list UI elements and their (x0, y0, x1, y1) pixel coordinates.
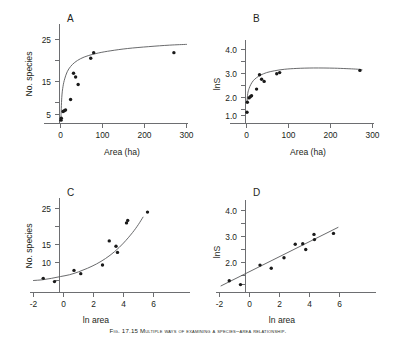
data-point (258, 73, 261, 76)
data-point (69, 98, 72, 101)
data-point (228, 279, 231, 282)
data-point (172, 51, 175, 54)
panel-b-x-ticks: 0 100 200 300 (244, 124, 380, 141)
panel-b-ytick-40: 4.0 (225, 45, 237, 55)
data-point (313, 238, 316, 241)
panel-b-y-axis-title: lnS (212, 78, 222, 91)
panel-a-ytick-15: 15 (42, 77, 52, 87)
panel-d-axes (216, 200, 376, 293)
data-point (312, 233, 315, 236)
panel-c-ytick-10: 10 (42, 258, 52, 268)
panel-b-letter: B (253, 13, 260, 24)
panel-a-ytick-25: 25 (42, 35, 52, 45)
data-point (76, 83, 79, 86)
data-point (239, 283, 242, 286)
panel-d-ytick-40: 4.0 (225, 206, 237, 216)
figure-caption-text: Fig. 17.15 Multiple ways of examining a … (109, 327, 286, 334)
data-point (278, 71, 281, 74)
data-point (358, 69, 361, 72)
panel-c-xtick-6: 6 (151, 299, 156, 309)
panel-d-ytick-20: 2.0 (225, 258, 237, 268)
data-point (262, 80, 265, 83)
panel-c-points (42, 210, 150, 283)
panel-d-points (228, 232, 336, 287)
data-point (294, 243, 297, 246)
panel-b-xtick-200: 200 (324, 130, 338, 140)
panel-d-xtick-4: 4 (307, 299, 312, 309)
panel-c-xtick-neg2: -2 (30, 299, 38, 309)
data-point (42, 277, 45, 280)
panel-a-plot: A 25 15 5 0 100 20 (0, 0, 198, 170)
panel-d-plot: D 4.0 3.0 2.0 (198, 170, 396, 330)
data-point (301, 242, 304, 245)
panel-d-y-ticks: 4.0 3.0 2.0 (225, 206, 245, 285)
panel-c: C 25 15 10 -2 0 (0, 170, 198, 330)
panel-a-x-axis-title: Area (ha) (104, 147, 140, 157)
panel-c-xtick-2: 2 (91, 299, 96, 309)
panel-b-fit-curve (247, 68, 362, 102)
panel-c-ytick-15: 15 (42, 240, 52, 250)
panel-a-letter: A (67, 13, 74, 24)
data-point (275, 72, 278, 75)
data-point (60, 117, 63, 120)
data-point (53, 280, 56, 283)
data-point (101, 263, 104, 266)
data-point (270, 267, 273, 270)
panel-c-x-axis-title: ln area (83, 315, 109, 325)
panel-d-xtick-neg2: -2 (216, 299, 224, 309)
data-point (64, 108, 67, 111)
panel-d-fit-line (221, 227, 338, 286)
data-point (79, 272, 82, 275)
data-point (282, 256, 285, 259)
panel-a: A 25 15 5 0 100 20 (0, 0, 198, 170)
data-point (304, 248, 307, 251)
data-point (92, 51, 95, 54)
panel-c-ytick-25: 25 (42, 204, 52, 214)
panel-a-xtick-300: 300 (180, 130, 194, 140)
panel-b-xtick-100: 100 (282, 130, 296, 140)
data-point (250, 94, 253, 97)
data-point (126, 219, 129, 222)
panel-a-xtick-200: 200 (138, 130, 152, 140)
panel-c-xtick-4: 4 (121, 299, 126, 309)
panel-b-ytick-10: 1.0 (225, 111, 237, 121)
panel-b-plot: B 4.0 3.0 2.0 1.0 (198, 0, 396, 170)
panel-c-axes (30, 198, 190, 293)
data-point (246, 101, 249, 104)
panel-a-ytick-5: 5 (46, 110, 51, 120)
data-point (108, 239, 111, 242)
panel-c-plot: C 25 15 10 -2 0 (0, 170, 198, 330)
panel-c-y-ticks: 25 15 10 (42, 204, 60, 281)
panel-a-xtick-0: 0 (58, 130, 63, 140)
panel-d-xtick-0: 0 (247, 299, 252, 309)
species-area-figure: A 25 15 5 0 100 20 (0, 0, 396, 340)
panel-b-xtick-0: 0 (244, 130, 249, 140)
panel-c-xtick-0: 0 (61, 299, 66, 309)
data-point (116, 251, 119, 254)
panel-b-ytick-30: 3.0 (225, 69, 237, 79)
panel-d-x-axis-title: ln area (269, 315, 295, 325)
figure-caption: Fig. 17.15 Multiple ways of examining a … (8, 327, 388, 335)
panel-b-axes (230, 40, 374, 124)
panel-d: D 4.0 3.0 2.0 (198, 170, 396, 330)
panel-a-y-ticks: 25 15 5 (42, 35, 60, 120)
data-point (72, 72, 75, 75)
panel-d-ytick-30: 3.0 (225, 232, 237, 242)
panel-d-x-ticks: -2 0 2 4 6 (216, 293, 342, 310)
panel-b-points (245, 69, 361, 114)
panel-d-y-axis-title: lnS (212, 246, 222, 259)
data-point (72, 269, 75, 272)
data-point (114, 245, 117, 248)
panel-a-points (59, 51, 175, 122)
panel-b: B 4.0 3.0 2.0 1.0 (198, 0, 396, 170)
data-point (258, 263, 261, 266)
data-point (255, 87, 258, 90)
data-point (146, 210, 149, 213)
panel-a-xtick-100: 100 (96, 130, 110, 140)
data-point (245, 111, 248, 114)
panel-a-y-axis-title: No. species (24, 52, 34, 97)
panel-a-fit-curve (61, 44, 187, 118)
panel-d-xtick-6: 6 (337, 299, 342, 309)
data-point (332, 232, 335, 235)
panel-d-letter: D (253, 187, 260, 198)
